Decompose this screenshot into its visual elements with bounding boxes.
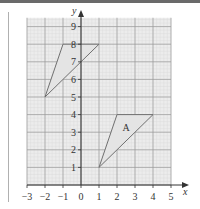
- x-tick-label: −2: [40, 191, 51, 202]
- x-tick-label: 2: [115, 191, 120, 202]
- y-tick-label: 8: [71, 39, 76, 50]
- y-tick-label: 4: [71, 109, 76, 120]
- coordinate-grid: Axy−3−2−1012345123456789: [0, 0, 200, 209]
- x-tick-label: 5: [169, 191, 174, 202]
- y-axis-arrow-icon: [78, 10, 84, 17]
- x-tick-label: −1: [58, 191, 69, 202]
- y-tick-label: 6: [71, 74, 76, 85]
- y-tick-label: 5: [71, 92, 76, 103]
- y-tick-label: 3: [71, 127, 76, 138]
- x-tick-label: 4: [151, 191, 156, 202]
- y-tick-label: 2: [71, 144, 76, 155]
- x-axis-label: x: [182, 186, 188, 197]
- y-axis-label: y: [71, 5, 77, 16]
- y-tick-label: 7: [71, 56, 76, 67]
- x-tick-label: 1: [97, 191, 102, 202]
- x-tick-label: 3: [133, 191, 138, 202]
- shape-label-A: A: [122, 122, 130, 133]
- x-tick-label: 0: [79, 191, 84, 202]
- x-tick-label: −3: [22, 191, 33, 202]
- y-tick-label: 9: [71, 21, 76, 32]
- y-tick-label: 1: [71, 162, 76, 173]
